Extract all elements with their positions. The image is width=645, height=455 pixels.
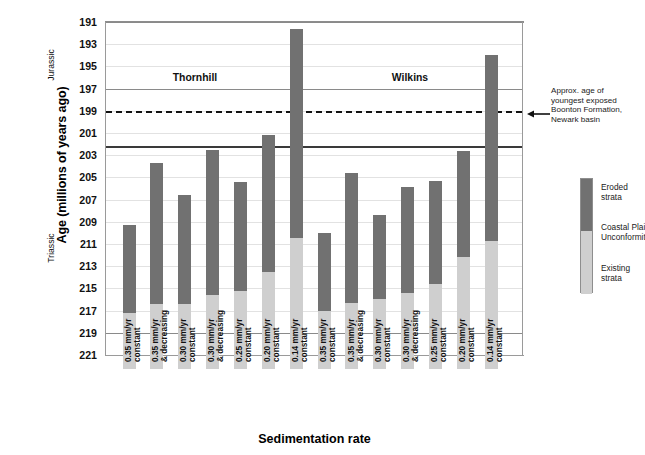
legend-label-existing-strata: Existing strata <box>601 264 645 283</box>
legend-eroded-line-2: strata <box>601 193 645 203</box>
x-tick-mode: constant <box>244 319 253 362</box>
x-tick-mode: & decreasing <box>412 310 421 362</box>
x-tick-label-11: 0.30 mm/yr& decreasing <box>402 310 421 362</box>
x-tick-mode: constant <box>189 319 198 362</box>
boonton-formation-annotation: Approx. age of youngest exposed Boonton … <box>551 86 645 124</box>
x-tick-label-13: 0.20 mm/yrconstant <box>458 319 477 362</box>
x-tick-label-8: 0.35 mm/yrconstant <box>319 319 338 362</box>
x-tick-mode: constant <box>328 319 337 362</box>
x-tick-label-12: 0.25 mm/yrconstant <box>430 319 449 362</box>
legend-label-coastal-plain-unconformity: Coastal Plain Unconformity <box>601 223 645 242</box>
x-tick-mode: constant <box>384 319 393 362</box>
annotation-line-3: Boonton Formation, <box>551 105 645 115</box>
x-tick-label-7: 0.14 mm/yrconstant <box>291 319 310 362</box>
x-tick-mode: & decreasing <box>356 310 365 362</box>
x-tick-mode: & decreasing <box>161 310 170 362</box>
annotation-line-4: Newark basin <box>551 115 645 125</box>
x-tick-label-3: 0.30 mm/yrconstant <box>179 319 198 362</box>
annotation-line-2: youngest exposed <box>551 96 645 106</box>
x-tick-mode: constant <box>300 319 309 362</box>
x-tick-mode: & decreasing <box>217 310 226 362</box>
annotation-arrow-icon <box>527 109 551 119</box>
x-tick-mode: constant <box>440 319 449 362</box>
legend-existing-line-2: strata <box>601 274 645 284</box>
x-axis-tick-labels: 0.35 mm/yrconstant0.35 mm/yr& decreasing… <box>0 0 645 455</box>
x-tick-label-1: 0.35 mm/yrconstant <box>124 319 143 362</box>
chart-figure: Age (millions of years ago) Jurassic Tri… <box>0 0 645 455</box>
x-axis-title: Sedimentation rate <box>105 432 524 446</box>
x-tick-label-9: 0.35 mm/yr& decreasing <box>347 310 366 362</box>
x-tick-label-10: 0.30 mm/yrconstant <box>374 319 393 362</box>
x-tick-label-4: 0.30 mm/yr& decreasing <box>207 310 226 362</box>
x-tick-mode: constant <box>467 319 476 362</box>
legend-unconformity-line-2: Unconformity <box>601 233 645 243</box>
x-tick-label-5: 0.25 mm/yrconstant <box>235 319 254 362</box>
x-tick-label-6: 0.20 mm/yrconstant <box>263 319 282 362</box>
legend-swatch-eroded-strata <box>581 179 592 231</box>
x-tick-label-2: 0.35 mm/yr& decreasing <box>151 310 170 362</box>
annotation-line-1: Approx. age of <box>551 86 645 96</box>
x-tick-mode: constant <box>272 319 281 362</box>
legend-swatch <box>580 178 593 293</box>
x-tick-mode: constant <box>133 319 142 362</box>
x-tick-label-14: 0.14 mm/yrconstant <box>486 319 505 362</box>
legend-swatch-existing-strata <box>581 231 592 294</box>
legend-label-eroded-strata: Eroded strata <box>601 183 645 202</box>
x-tick-mode: constant <box>495 319 504 362</box>
